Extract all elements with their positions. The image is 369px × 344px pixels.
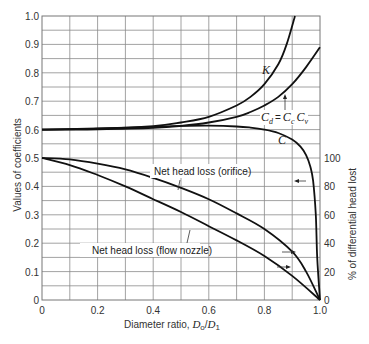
- arrow-C-to-left: [294, 179, 306, 183]
- y-axis-label-left: Values of coefficients: [12, 118, 23, 212]
- y-axis-ticks-right: 020406080100: [324, 153, 341, 306]
- coefficient-chart: 00.10.20.30.40.50.60.70.80.91.0 00.20.40…: [0, 0, 369, 344]
- label-K: K: [261, 63, 271, 77]
- x-tick-label: 0: [39, 305, 45, 316]
- y-tick-label: 0.9: [25, 39, 39, 50]
- label-orifice: Net head loss (orifice): [154, 166, 251, 177]
- x-axis-ticks: 00.20.40.60.81.0: [39, 305, 327, 316]
- orifice-leader-line: [178, 180, 180, 190]
- y-right-tick-label: 100: [324, 153, 341, 164]
- y-tick-label: 0.6: [25, 125, 39, 136]
- y-tick-label: 0.2: [25, 238, 39, 249]
- y-right-tick-label: 80: [324, 181, 336, 192]
- Cd-leader-arrow: [283, 94, 287, 99]
- y-axis-label-right: % of differential head lost: [347, 168, 358, 280]
- y-tick-label: 0.5: [25, 153, 39, 164]
- y-right-tick-label: 60: [324, 210, 336, 221]
- label-nozzle: Net head loss (flow nozzle): [92, 245, 212, 256]
- y-tick-label: 0.8: [25, 68, 39, 79]
- y-tick-label: 0.4: [25, 181, 39, 192]
- y-tick-label: 0.3: [25, 210, 39, 221]
- label-C: C: [278, 133, 287, 147]
- y-tick-label: 0.1: [25, 267, 39, 278]
- x-tick-label: 0.6: [202, 305, 216, 316]
- y-right-tick-label: 0: [324, 295, 330, 306]
- y-axis-ticks-left: 00.10.20.30.40.50.60.70.80.91.0: [25, 11, 39, 306]
- label-Cd-equation: Cd=CcCv: [261, 110, 308, 126]
- x-tick-label: 1.0: [313, 305, 327, 316]
- x-tick-label: 0.8: [257, 305, 271, 316]
- x-tick-label: 0.4: [146, 305, 160, 316]
- x-axis-label: Diameter ratio, Do/D1: [124, 318, 221, 332]
- y-right-tick-label: 20: [324, 267, 336, 278]
- y-tick-label: 1.0: [25, 11, 39, 22]
- grid: [42, 16, 320, 300]
- y-tick-label: 0.7: [25, 96, 39, 107]
- y-right-tick-label: 40: [324, 238, 336, 249]
- nozzle-leader-line: [187, 230, 190, 243]
- x-tick-label: 0.2: [91, 305, 105, 316]
